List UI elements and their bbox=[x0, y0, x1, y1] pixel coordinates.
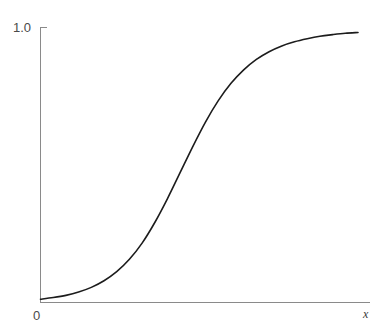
y-axis-tick-label-top: 1.0 bbox=[13, 20, 31, 35]
sigmoid-curve bbox=[41, 32, 359, 299]
x-axis-label: x bbox=[362, 307, 369, 321]
chart-plot-area: 1.0 0 x bbox=[0, 0, 386, 326]
origin-label: 0 bbox=[33, 308, 40, 323]
chart-figure: 1.0 0 x bbox=[0, 0, 386, 326]
